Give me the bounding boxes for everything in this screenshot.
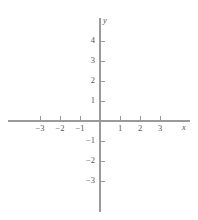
y-tick-label: −3 xyxy=(86,175,95,185)
x-axis-label: x xyxy=(181,122,186,132)
x-tick-label: −3 xyxy=(35,123,44,133)
y-tick-label: 3 xyxy=(91,55,95,65)
x-tick-label: 3 xyxy=(158,123,162,133)
x-tick-label: −2 xyxy=(55,123,64,133)
x-tick-label: −1 xyxy=(75,123,84,133)
y-tick-label: −1 xyxy=(86,135,95,145)
x-tick-label: 1 xyxy=(118,123,122,133)
coordinate-plane-svg: −3−2−1123 4321−1−2−3 x y xyxy=(0,0,198,220)
y-tick-label: 1 xyxy=(91,95,95,105)
x-tick-label: 2 xyxy=(138,123,142,133)
coordinate-plane-figure: −3−2−1123 4321−1−2−3 x y xyxy=(0,0,198,220)
axes-group xyxy=(8,18,190,212)
y-tick-label: 2 xyxy=(91,75,95,85)
y-axis-label: y xyxy=(102,15,107,25)
y-tick-label: 4 xyxy=(91,35,96,45)
y-axis-ticks: 4321−1−2−3 xyxy=(86,35,105,185)
x-axis-ticks: −3−2−1123 xyxy=(35,116,162,133)
y-tick-label: −2 xyxy=(86,155,95,165)
